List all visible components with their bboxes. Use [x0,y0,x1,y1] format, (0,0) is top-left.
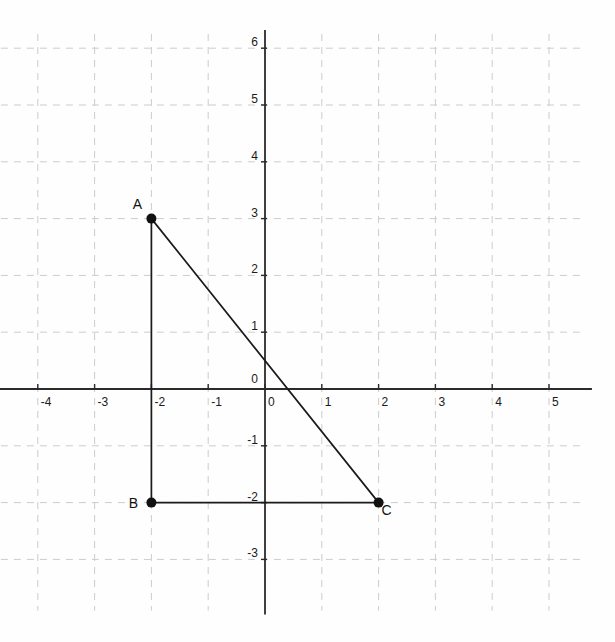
point-a [146,214,156,224]
x-axis-tick-label: 5 [552,395,559,409]
y-axis-tick-label: 4 [251,149,258,163]
coordinate-plane-figure: -4-3-2-1012345-3-2-10123456 ABC [0,0,615,642]
y-axis-tick-label: 6 [251,35,258,49]
y-axis-tick-label: 2 [251,262,258,276]
point-b [146,498,156,508]
x-axis-tick-label: 3 [438,395,445,409]
point-label-a: A [133,196,143,212]
y-axis-tick-label: -2 [247,490,258,504]
x-axis-tick-label: 1 [325,395,332,409]
x-axis-tick-label: -3 [98,395,109,409]
x-axis-tick-label: -4 [41,395,52,409]
point-label-c: C [382,502,392,518]
x-axis-tick-label: 0 [268,395,275,409]
x-axis-tick-label: 2 [382,395,389,409]
y-axis-tick-label: -1 [247,433,258,447]
x-axis-tick-label: 4 [495,395,502,409]
x-axis-tick-label: -1 [211,395,222,409]
grid-lines [1,34,586,611]
y-axis-tick-label: 3 [251,206,258,220]
y-axis-tick-label: 5 [251,92,258,106]
x-axis-tick-label: -2 [154,395,165,409]
axis-ticks [38,48,549,559]
point-label-b: B [129,495,138,511]
y-axis-tick-label: 1 [251,319,258,333]
y-axis-tick-label: 0 [251,372,258,386]
graph-canvas: -4-3-2-1012345-3-2-10123456 ABC [0,0,615,642]
y-axis-tick-label: -3 [247,546,258,560]
axis-tick-labels: -4-3-2-1012345-3-2-10123456 [41,35,559,560]
axes [0,30,592,615]
